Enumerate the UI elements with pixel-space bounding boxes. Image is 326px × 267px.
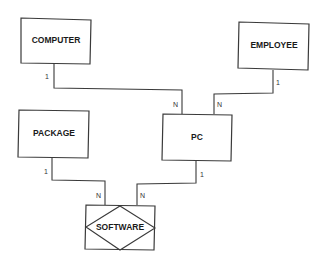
cardinality-pc-n-from-computer: N: [173, 101, 178, 108]
cardinality-computer-1: 1: [45, 73, 49, 80]
cardinality-pc-1: 1: [200, 171, 204, 178]
connector-computer-pc: [54, 64, 182, 114]
entity-software-label: SOFTWARE: [96, 222, 144, 232]
cardinality-package-1: 1: [44, 168, 48, 175]
connector-employee-pc: [214, 70, 273, 114]
entity-pc[interactable]: PC: [162, 114, 232, 161]
entity-software[interactable]: SOFTWARE: [85, 205, 155, 250]
entity-package-label: PACKAGE: [33, 128, 75, 138]
cardinality-pc-n-from-employee: N: [217, 101, 222, 108]
cardinality-software-n-from-package: N: [96, 192, 101, 199]
entity-package[interactable]: PACKAGE: [18, 110, 89, 158]
entity-computer[interactable]: COMPUTER: [21, 18, 91, 64]
connector-pc-software: [137, 161, 196, 205]
er-diagram-canvas: 1 N 1 N 1 N 1 N COMPUTER EMPLOYEE PACKAG…: [0, 0, 326, 267]
entity-computer-label: COMPUTER: [32, 35, 81, 45]
cardinality-employee-1: 1: [276, 79, 280, 86]
entity-employee[interactable]: EMPLOYEE: [238, 22, 309, 70]
entity-pc-label: PC: [191, 132, 203, 142]
entity-employee-label: EMPLOYEE: [250, 40, 298, 50]
cardinality-software-n-from-pc: N: [140, 192, 145, 199]
